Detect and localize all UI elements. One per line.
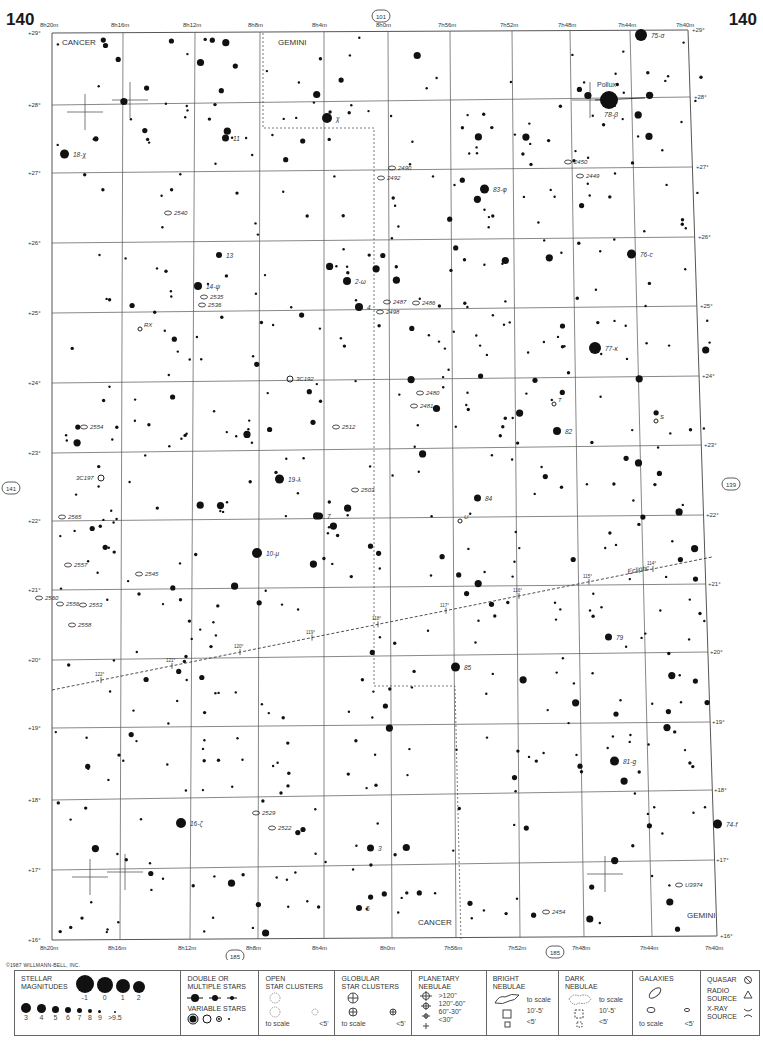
star [307, 389, 312, 394]
star [449, 269, 452, 272]
star [379, 636, 381, 638]
star [214, 163, 216, 165]
star [354, 739, 357, 742]
star [589, 609, 591, 611]
star [592, 593, 594, 595]
star [203, 711, 206, 714]
star [376, 551, 381, 556]
star [369, 863, 372, 866]
star [492, 314, 494, 316]
star [614, 172, 616, 174]
star [664, 80, 666, 82]
star [706, 320, 708, 322]
star [540, 466, 542, 468]
galaxy-marker [417, 391, 424, 395]
star [297, 608, 299, 610]
star [587, 183, 589, 185]
star [272, 765, 274, 767]
star [427, 630, 429, 632]
star-label: 82 [565, 428, 573, 435]
star [257, 600, 262, 605]
star [228, 880, 235, 887]
star [390, 115, 392, 117]
star [430, 574, 432, 576]
star-label: 85 [464, 664, 472, 671]
adjacent-chart-bottom-left-text: 185 [230, 954, 241, 960]
star [503, 324, 505, 326]
star [478, 374, 483, 379]
star [438, 304, 441, 307]
quasar-marker [287, 376, 293, 382]
dso-label: RX [144, 322, 153, 328]
legend-stellar-magnitudes: STELLAR MAGNITUDES -1 0 1 2 3 4 5 6 7 8 … [15, 971, 180, 1035]
star [636, 375, 643, 382]
ecliptic-tick-label: 119° [306, 630, 315, 635]
star [101, 38, 106, 43]
star [235, 191, 238, 194]
star [156, 267, 158, 269]
star [685, 227, 687, 229]
star [148, 141, 150, 143]
variable-star-marker [552, 402, 556, 406]
galaxy-marker [65, 563, 72, 567]
star [252, 927, 254, 929]
star-label: 5 [366, 905, 370, 912]
star [75, 493, 77, 495]
star [330, 523, 337, 530]
dec-label-left: +29° [28, 30, 41, 36]
star [524, 826, 529, 831]
ra-label-bottom: 8h0m [380, 945, 395, 951]
star [619, 699, 621, 701]
star-label: 2-ω [354, 278, 366, 285]
star [236, 737, 238, 739]
star-label: 14-ψ [206, 283, 220, 291]
named-star [252, 548, 262, 558]
star [203, 759, 206, 762]
star [629, 734, 631, 736]
star [216, 604, 219, 607]
star [106, 928, 108, 930]
star-label: 4 [367, 304, 371, 311]
star [557, 336, 559, 338]
dso-label: 2558 [77, 622, 92, 628]
star [170, 585, 175, 590]
star [98, 85, 100, 87]
star [241, 873, 244, 876]
star [90, 526, 95, 531]
star [412, 670, 415, 673]
star [336, 534, 339, 537]
star [625, 325, 627, 327]
star [153, 311, 156, 314]
star [708, 341, 710, 343]
star [624, 456, 629, 461]
galaxy-marker [333, 425, 340, 429]
galaxy-marker [57, 602, 64, 606]
star [668, 344, 670, 346]
star [222, 39, 229, 46]
star [428, 334, 430, 336]
star [631, 844, 634, 847]
ra-label-top: 7h48m [558, 22, 576, 28]
star [398, 393, 400, 395]
named-star [322, 113, 332, 123]
star [347, 514, 349, 516]
star [600, 606, 602, 608]
star [144, 677, 149, 682]
star [394, 205, 396, 207]
star [515, 531, 517, 533]
dec-line [52, 722, 710, 728]
star [613, 320, 615, 322]
star [148, 871, 153, 876]
star [434, 892, 436, 894]
star [543, 239, 545, 241]
magnitude-dot [114, 1011, 116, 1013]
star [667, 652, 670, 655]
star [623, 92, 625, 94]
star [512, 775, 517, 780]
star [282, 716, 285, 719]
star [314, 853, 316, 855]
adjacent-chart-left-text: 141 [6, 486, 17, 492]
star [107, 779, 109, 781]
ra-label-bottom: 7h48m [572, 945, 590, 951]
star [602, 123, 605, 126]
